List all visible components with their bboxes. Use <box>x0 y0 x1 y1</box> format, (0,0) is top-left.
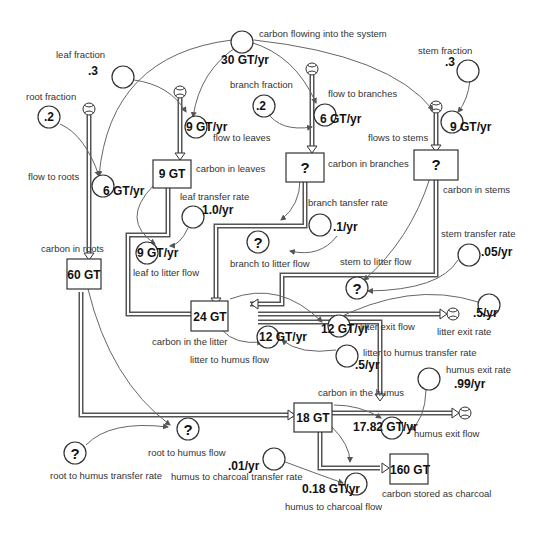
flow-value: ? <box>352 280 361 297</box>
param-stem-transfer-rate[interactable]: stem transfer rate .05/yr <box>441 228 515 266</box>
flow-label: flow to branches <box>328 88 397 99</box>
param-value: .5/yr <box>473 306 498 320</box>
stock-value: 24 GT <box>193 310 227 324</box>
flow-label: humus exit flow <box>414 428 480 439</box>
stock-value: 160 GT <box>390 463 431 477</box>
param-value: .3 <box>445 55 455 69</box>
flow-value: 9 GT/yr <box>137 246 179 260</box>
stock-carbon-in-leaves[interactable]: 9 GT carbon in leaves <box>153 160 265 188</box>
stock-label: carbon in branches <box>328 158 409 169</box>
param-label: root to humus transfer rate <box>50 470 162 481</box>
flow-label: carbon flowing into the system <box>259 28 387 39</box>
flow-label: litter exit flow <box>360 321 415 332</box>
stock-label: carbon in the litter <box>152 336 228 347</box>
param-value: .5/yr <box>355 358 380 372</box>
arrowhead-litter-exit <box>440 309 447 319</box>
flow-to-stems[interactable]: 9 GT/yr flows to stems <box>368 111 492 143</box>
flow-value: 17.82 GT/yr <box>353 420 418 434</box>
arrowhead-charcoal <box>382 463 389 473</box>
stock-carbon-in-stems[interactable]: ? carbon in stems <box>414 150 510 195</box>
param-value: .2 <box>256 99 266 113</box>
flow-label: flow to roots <box>28 171 79 182</box>
stock-label: carbon in leaves <box>196 163 265 174</box>
flow-value: 9 GT/yr <box>450 120 492 134</box>
param-leaf-transfer-rate[interactable]: leaf transfer rate 1.0/yr <box>180 191 249 228</box>
param-branch-transfer-rate[interactable]: branch tansfer rate .1/yr <box>308 197 388 236</box>
flow-to-leaves[interactable]: 9 GT/yr flow to leaves <box>185 116 271 143</box>
flow-value: 12 GT/yr <box>259 330 307 344</box>
flow-label: leaf to litter flow <box>133 267 199 278</box>
flow-label: branch to litter flow <box>230 258 310 269</box>
param-label: humus exit rate <box>446 364 511 375</box>
flow-branch-to-litter[interactable]: ? branch to litter flow <box>230 231 310 269</box>
param-value: .2 <box>44 110 54 124</box>
flow-value: ? <box>253 234 262 251</box>
param-litter-exit-rate[interactable]: litter exit rate .5/yr <box>437 294 500 337</box>
param-label: litter to humus transfer rate <box>363 347 477 358</box>
cloud-source-branches-icon <box>306 63 318 75</box>
param-value: .99/yr <box>454 377 486 391</box>
stock-label: carbon stored as charcoal <box>382 488 491 499</box>
stock-carbon-in-branches[interactable]: ? carbon in branches <box>286 153 409 182</box>
cloud-source-stems-icon <box>430 101 442 113</box>
param-branch-fraction[interactable]: branch fraction .2 <box>230 79 293 117</box>
flow-value: 6 GT/yr <box>320 112 362 126</box>
stock-carbon-in-roots[interactable]: 60 GT carbon in roots <box>41 243 104 289</box>
stock-value: 60 GT <box>67 268 101 282</box>
arrowhead-litter-right <box>251 299 258 309</box>
param-value: .1/yr <box>333 220 358 234</box>
flow-label: flow to leaves <box>213 132 271 143</box>
arrowhead-branches <box>307 146 317 153</box>
stock-label: carbon in roots <box>41 243 104 254</box>
flow-litter-exit[interactable]: 12 GT/yr litter exit flow <box>321 315 415 337</box>
param-label: branch tansfer rate <box>308 197 388 208</box>
flow-label: litter to humus flow <box>190 354 269 365</box>
flow-leaf-to-litter[interactable]: 9 GT/yr leaf to litter flow <box>133 242 199 278</box>
pipe-humus-to-charcoal <box>320 431 380 468</box>
flow-value: 6 GT/yr <box>103 184 145 198</box>
stock-value: 9 GT <box>159 167 186 181</box>
param-root-fraction[interactable]: root fraction .2 <box>26 91 76 128</box>
stock-carbon-stored-as-charcoal[interactable]: 160 GT carbon stored as charcoal <box>382 454 491 499</box>
param-value: ? <box>70 445 79 462</box>
stock-value: ? <box>300 159 309 176</box>
cloud-source-roots-icon <box>83 103 95 115</box>
arrowhead-humus-exit <box>452 408 459 418</box>
clouds <box>83 63 471 419</box>
stock-label: carbon in the humus <box>318 387 404 398</box>
param-leaf-fraction[interactable]: leaf fraction .3 <box>56 49 134 88</box>
stock-label: carbon in stems <box>443 184 510 195</box>
flow-value: 30 GT/yr <box>221 53 269 67</box>
flow-label: humus to charcoal flow <box>285 501 382 512</box>
param-label: litter exit rate <box>437 326 491 337</box>
param-humus-exit-rate[interactable]: humus exit rate .99/yr <box>418 364 511 391</box>
cloud-sink-humus-icon <box>459 407 471 419</box>
param-label: root fraction <box>26 91 76 102</box>
stock-value: 18 GT <box>296 411 330 425</box>
stock-carbon-in-the-litter[interactable]: 24 GT carbon in the litter <box>152 301 228 347</box>
flow-root-to-humus[interactable]: ? root to humus flow <box>148 418 226 458</box>
param-value: .3 <box>88 64 98 78</box>
flow-value: ? <box>183 421 192 438</box>
param-value: .05/yr <box>481 245 513 259</box>
param-stem-fraction[interactable]: stem fraction .3 <box>418 45 479 82</box>
param-value: .01/yr <box>228 459 260 473</box>
cloud-source-leaves-icon <box>174 86 186 98</box>
param-value: 1.0/yr <box>202 203 234 217</box>
flow-label: flows to stems <box>368 132 428 143</box>
param-label: leaf transfer rate <box>180 191 249 202</box>
flow-humus-exit[interactable]: 17.82 GT/yr humus exit flow <box>353 417 480 439</box>
stock-value: ? <box>431 156 440 173</box>
cloud-sink-litter-icon <box>447 308 459 320</box>
flow-label: root to humus flow <box>148 447 226 458</box>
flow-to-roots[interactable]: 6 GT/yr flow to roots <box>28 171 145 198</box>
param-label: branch fraction <box>230 79 293 90</box>
param-label: leaf fraction <box>56 49 105 60</box>
arrowhead-leaves <box>175 153 185 160</box>
param-root-to-humus-transfer-rate[interactable]: ? root to humus transfer rate <box>50 442 162 481</box>
flow-value: 0.18 GT/yr <box>302 482 360 496</box>
param-label: stem transfer rate <box>441 228 515 239</box>
stock-flow-diagram: 9 GT carbon in leaves ? carbon in branch… <box>0 0 542 538</box>
flow-to-branches[interactable]: 6 GT/yr flow to branches <box>314 88 397 126</box>
flow-label: stem to litter flow <box>340 256 411 267</box>
